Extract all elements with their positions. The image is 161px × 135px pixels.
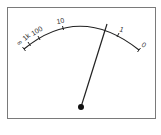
label-1: 1 — [119, 25, 125, 33]
meter-needle — [81, 24, 107, 107]
ohmmeter-dial: ∞ 1k 100 10 1 0 — [0, 0, 161, 135]
scale-labels: ∞ 1k 100 10 1 0 — [15, 17, 147, 49]
label-100: 100 — [30, 25, 44, 37]
label-infinity: ∞ — [15, 38, 23, 47]
needle-pivot — [78, 104, 84, 110]
label-10: 10 — [56, 17, 65, 25]
label-zero: 0 — [141, 41, 148, 49]
tick-10 — [63, 26, 64, 30]
